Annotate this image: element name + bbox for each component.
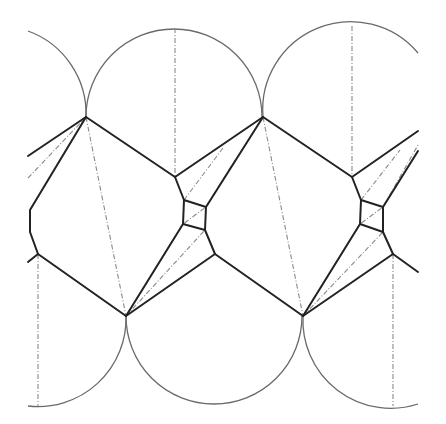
node-low-to-bottom1 [126,254,215,316]
tiling-diagram [0,0,446,424]
diag-top1-to-bottom1 [86,117,126,316]
top-arc-1 [86,29,262,117]
node-to-top2 [175,117,263,177]
diag-bottom2-pent2 [303,232,383,316]
left-upper-spoke-a [28,117,86,156]
left-upper-spoke-b [28,117,86,262]
node-low-to-bottom2 [215,254,303,316]
diag-pent1 [126,160,235,316]
node-down-1 [175,177,184,200]
diag-left-spoke [28,117,86,178]
node-low2-to-right [393,254,418,272]
top-arc-2 [263,22,418,117]
pent1-to-node-low [205,230,215,254]
pent1-to-top2 [206,117,263,207]
diag-top2-to-bottom2 [263,117,303,316]
bottom-arc-2 [303,316,418,408]
bottom-arc-left [28,316,126,407]
pent2-to-right [383,151,418,207]
bottom-arc-1 [126,316,302,404]
solid-polygon-edges [28,117,418,316]
node2-down [352,177,361,200]
node-low2-to-bottom2 [303,254,393,316]
diag-pent1-upper [184,148,223,200]
top2-to-node2 [263,117,352,177]
pent2-to-bottom2 [303,224,360,316]
diag-bottom1-pent1 [126,230,205,316]
top1-to-node [86,117,175,177]
left-low-to-bottom1 [38,254,126,316]
node2-to-right [352,131,418,177]
top-arc-left-partial [28,31,86,117]
pent1-to-bottom1 [126,224,183,316]
pent2-to-node-low2 [383,232,393,254]
